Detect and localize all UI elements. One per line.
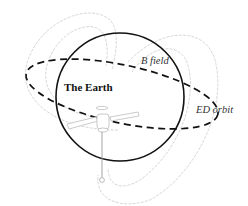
solar-panel-right [110,112,139,121]
earth-circle [56,33,184,161]
tether-end-mass [100,178,105,183]
diagram-canvas [0,0,248,206]
spacecraft [67,106,139,132]
solar-panel-left [67,117,98,129]
magnetic-field-lines [25,13,218,204]
field-line-upper-left-inner [46,27,112,118]
ed-orbit-label: ED orbit [196,105,233,116]
spacecraft-antenna [96,106,108,109]
ed-orbit [20,45,224,142]
b-field-label: B field [141,56,169,67]
earth-label: The Earth [64,82,113,93]
spacecraft-body [97,114,109,129]
field-line-upper-left-outer [25,13,118,130]
